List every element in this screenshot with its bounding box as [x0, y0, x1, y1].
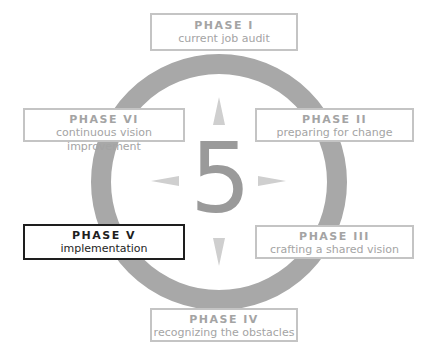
phase-subtitle: current job audit [152, 32, 296, 46]
phase-box-5-highlighted: PHASE V implementation [23, 224, 185, 260]
arrow-down-icon [213, 238, 225, 266]
arrow-left-icon [151, 176, 179, 186]
phase-box-2: PHASE II preparing for change [255, 108, 414, 142]
phase-subtitle: implementation [25, 242, 183, 256]
phase-box-1: PHASE I current job audit [150, 13, 298, 51]
phase-title: PHASE VI [25, 113, 183, 126]
phase-title: PHASE IV [152, 313, 296, 326]
phase-box-3: PHASE III crafting a shared vision [255, 225, 414, 259]
phase-title: PHASE I [152, 19, 296, 32]
phase-title: PHASE V [25, 229, 183, 242]
phase-title: PHASE III [257, 230, 412, 243]
phase-subtitle: recognizing the obstacles [152, 326, 296, 340]
phase-subtitle: crafting a shared vision [257, 243, 412, 257]
phase-box-6: PHASE VI continuous vision improvement [23, 108, 185, 142]
phase-box-4: PHASE IV recognizing the obstacles [150, 308, 298, 342]
center-number: 5 [190, 124, 250, 234]
phase-subtitle: preparing for change [257, 126, 412, 140]
arrow-up-icon [213, 97, 225, 125]
phase-subtitle: continuous vision improvement [25, 126, 183, 154]
phase-title: PHASE II [257, 113, 412, 126]
arrow-right-icon [258, 176, 286, 186]
